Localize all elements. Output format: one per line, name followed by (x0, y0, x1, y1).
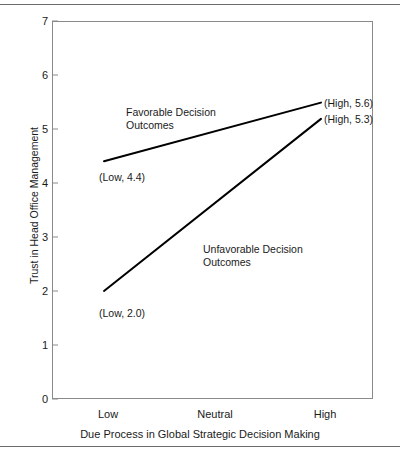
xtick-label-high: High (285, 409, 365, 420)
xtick-label-low: Low (68, 409, 148, 420)
ytick-label-7: 7 (24, 16, 48, 27)
ytick-label-1: 1 (24, 340, 48, 351)
chart-canvas (0, 0, 400, 453)
point-label-unfavorable-high: (High, 5.3) (324, 114, 373, 125)
series-annotation-unfavorable: Unfavorable Decision Outcomes (203, 243, 303, 268)
y-axis-title: Trust in Head Office Management (29, 96, 40, 316)
point-label-favorable-low: (Low, 4.4) (99, 172, 145, 183)
point-label-unfavorable-low: (Low, 2.0) (99, 308, 145, 319)
ytick-label-6: 6 (24, 70, 48, 81)
xtick-label-neutral: Neutral (175, 409, 255, 420)
ytick-label-0: 0 (24, 394, 48, 405)
series-annotation-favorable: Favorable Decision Outcomes (126, 106, 216, 131)
point-label-favorable-high: (High, 5.6) (324, 98, 373, 109)
y-tick-marks (52, 21, 58, 399)
interaction-line-chart: 7 6 5 4 3 2 1 0 Low Neutral High Trust i… (0, 0, 400, 453)
x-axis-title: Due Process in Global Strategic Decision… (0, 428, 400, 440)
